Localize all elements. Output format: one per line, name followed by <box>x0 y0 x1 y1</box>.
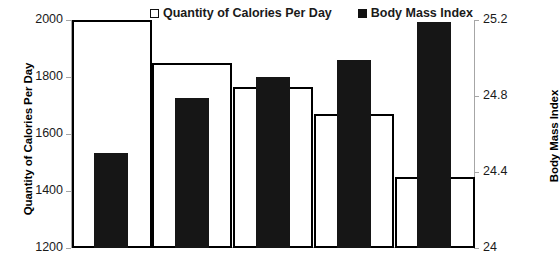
y-tick-label-right: 24.8 <box>483 89 507 102</box>
y-tick-left <box>66 248 71 249</box>
legend-swatch-filled-square-icon <box>358 9 367 18</box>
bars-container <box>71 20 475 248</box>
bar-bmi <box>417 22 451 248</box>
legend-item-bmi: Body Mass Index <box>358 7 473 20</box>
legend-label-bmi: Body Mass Index <box>371 7 473 20</box>
y-tick-label-left: 1200 <box>35 241 63 254</box>
legend-label-calories: Quantity of Calories Per Day <box>163 7 332 20</box>
y-tick-label-right: 25.2 <box>483 13 507 26</box>
legend-swatch-open-square-icon <box>150 9 159 18</box>
y-tick-right <box>474 248 479 249</box>
legend-item-calories: Quantity of Calories Per Day <box>150 7 332 20</box>
bar-bmi <box>175 98 209 248</box>
y-axis-title-left: Quantity of Calories Per Day <box>22 54 34 224</box>
plot-area: 12001400160018002000 2424.424.825.2 <box>71 20 475 248</box>
bar-bmi <box>94 153 128 248</box>
bar-bmi <box>256 77 290 248</box>
y-tick-label-right: 24.4 <box>483 165 507 178</box>
y-tick-label-left: 1600 <box>35 127 63 140</box>
y-tick-label-right: 24 <box>483 241 497 254</box>
y-axis-title-right: Body Mass Index <box>548 61 560 211</box>
bar-bmi <box>337 60 371 248</box>
y-tick-label-left: 2000 <box>35 13 63 26</box>
y-tick-label-left: 1800 <box>35 70 63 83</box>
y-tick-label-left: 1400 <box>35 184 63 197</box>
